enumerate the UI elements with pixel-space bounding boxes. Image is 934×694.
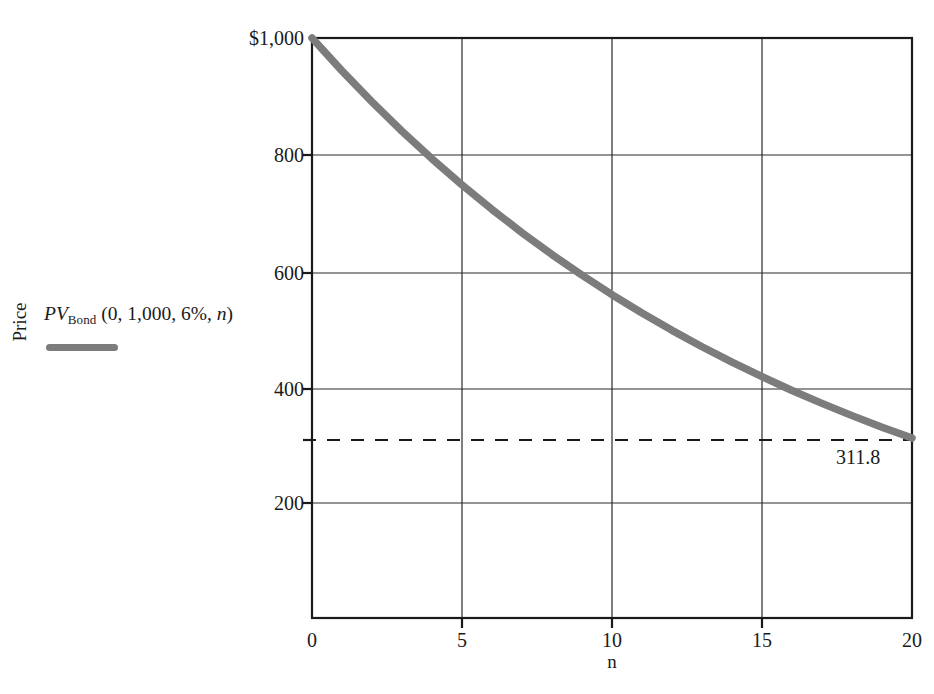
vertical-gridlines (462, 38, 762, 618)
x-axis-ticks (462, 618, 762, 628)
plot-area (0, 0, 934, 694)
chart-figure: Price PVBond (0, 1,000, 6%, n) $1,000 80… (0, 0, 934, 694)
y-axis-ticks (303, 155, 312, 503)
